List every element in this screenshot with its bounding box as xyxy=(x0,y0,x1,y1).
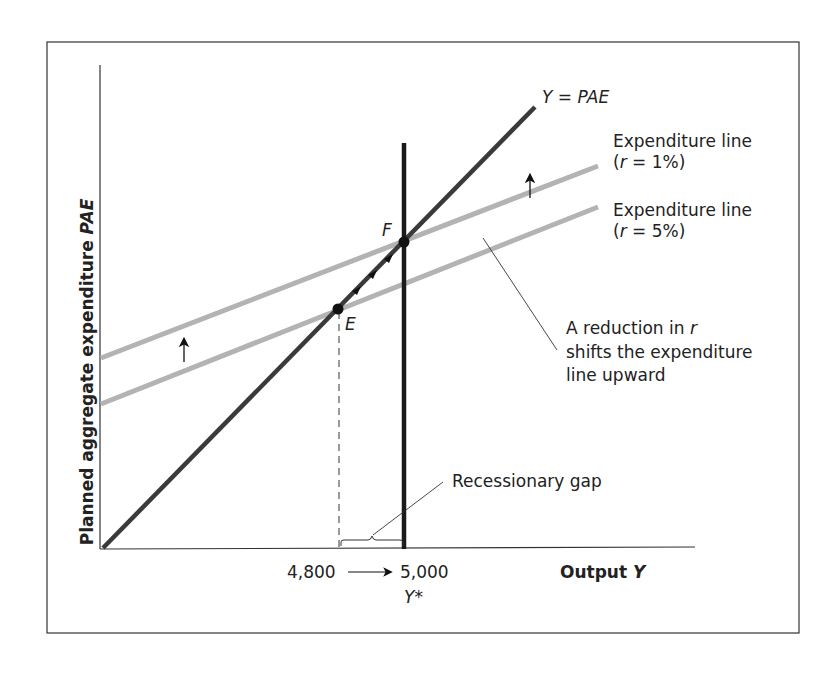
tick-5000: 5,000 xyxy=(400,562,449,582)
expenditure-r1-rate: (r = 1%) xyxy=(613,152,685,172)
line-y-equals-pae-label: Y = PAE xyxy=(542,87,609,107)
point-f-label: F xyxy=(382,220,392,240)
point-f xyxy=(399,237,410,248)
expenditure-line-r5 xyxy=(101,207,598,404)
x-axis xyxy=(100,547,695,549)
tick-4800: 4,800 xyxy=(287,562,336,582)
recessionary-gap-label: Recessionary gap xyxy=(452,471,602,491)
recessionary-gap-leader xyxy=(373,482,443,535)
reduction-note-line1: A reduction in r xyxy=(566,318,698,338)
ystar-label: Y* xyxy=(404,587,423,607)
reduction-note-line3: line upward xyxy=(566,365,665,385)
y-axis-label: Planned aggregate expenditure PAE xyxy=(77,198,97,545)
recessionary-gap-brace xyxy=(341,536,403,546)
figure: Planned aggregate expenditure PAE E F Y … xyxy=(0,0,839,673)
expenditure-r5-rate: (r = 5%) xyxy=(613,221,685,241)
point-e xyxy=(333,304,344,315)
point-e-label: E xyxy=(345,314,356,334)
x-axis-label: Output Y xyxy=(560,562,647,582)
expenditure-r5-label: Expenditure line xyxy=(613,200,752,220)
expenditure-r1-label: Expenditure line xyxy=(613,131,752,151)
reduction-note-line2: shifts the expenditure xyxy=(566,342,753,362)
reduction-note-leader xyxy=(483,238,557,350)
